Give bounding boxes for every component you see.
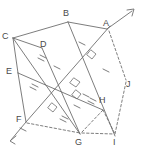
segment-G-H-dashed xyxy=(82,110,103,132)
tick-single-4 xyxy=(83,94,89,97)
segment-C-E xyxy=(13,38,18,73)
ray-A-to-top-right xyxy=(107,11,132,29)
vertex-label-J: J xyxy=(126,80,131,89)
tick-single-5 xyxy=(74,105,80,108)
segment-H-I xyxy=(103,110,115,134)
geometry-figure: A B C D E F G H I J xyxy=(0,0,143,152)
tick-double-2a xyxy=(30,87,36,90)
tick-double-3a xyxy=(60,119,66,122)
vertex-label-E: E xyxy=(6,67,12,76)
segment-A-J xyxy=(109,31,126,80)
tick-double-4b xyxy=(90,98,96,101)
segment-F-G xyxy=(27,123,80,133)
tick-single-2 xyxy=(103,69,109,72)
vertex-label-A: A xyxy=(103,19,109,28)
tick-single-3 xyxy=(54,66,60,69)
segment-G-I xyxy=(82,133,114,134)
vertex-label-F: F xyxy=(16,115,22,124)
vertex-label-H: H xyxy=(99,96,106,105)
segment-C-G xyxy=(13,38,80,134)
segment-C-D xyxy=(13,38,42,48)
tick-double-2b xyxy=(32,84,38,87)
vertex-label-D: D xyxy=(40,40,47,49)
vertex-label-C: C xyxy=(2,32,9,41)
right-angle-mark-3 xyxy=(72,90,81,99)
right-angle-mark-2 xyxy=(70,78,80,87)
ray-F-to-bottom-left xyxy=(11,122,26,140)
tick-double-1a xyxy=(38,58,44,61)
vertex-label-G: G xyxy=(75,138,82,147)
segment-B-A xyxy=(68,22,107,29)
tick-single-1 xyxy=(79,42,85,45)
tick-double-3b xyxy=(62,116,68,119)
tick-single-6 xyxy=(20,128,26,131)
segment-D-G xyxy=(42,48,80,134)
figure-canvas xyxy=(0,0,143,152)
segment-J-I xyxy=(115,82,126,134)
right-angle-mark-4 xyxy=(48,103,57,112)
vertex-label-B: B xyxy=(63,9,69,18)
vertex-label-I: I xyxy=(113,138,116,147)
segment-C-B xyxy=(13,22,68,38)
segment-E-H xyxy=(18,73,103,110)
